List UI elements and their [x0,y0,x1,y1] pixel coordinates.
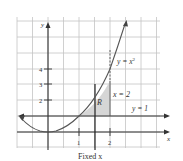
fixed-x-label: Fixed x [78,152,102,161]
diagram: y x 2 3 4 1 2 y = x2 x = 2 y = 1 R Fixed… [0,0,183,161]
x-tick-label-2: 2 [108,139,111,146]
y-tick-label-3: 3 [39,81,42,88]
x-tick-label-1: 1 [77,139,80,146]
region-r-label: R [96,98,102,107]
x-axis-label: x [166,135,171,143]
x-axis [17,130,170,135]
y-axis-label: y [40,21,45,29]
y-axis [46,22,51,150]
y-equals-1-label: y = 1 [131,104,148,113]
x-equals-2-label: x = 2 [112,90,130,99]
parabola-label: y = x2 [116,57,135,66]
y-tick-label-2: 2 [39,97,42,104]
